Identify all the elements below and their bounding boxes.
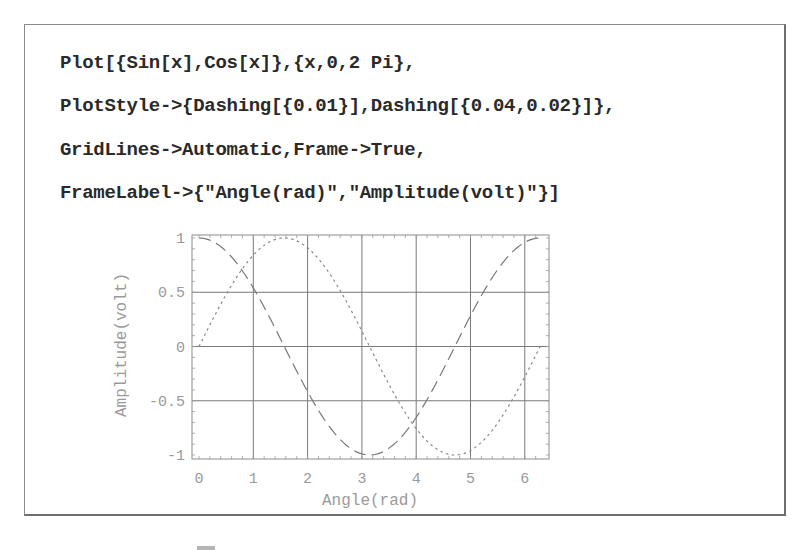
y-axis-label: Amplitude(volt) bbox=[113, 273, 131, 417]
x-tick-3: 3 bbox=[357, 471, 366, 488]
y-tick-labels: 10.50-0.5-1 bbox=[149, 231, 185, 465]
x-tick-0: 0 bbox=[194, 471, 203, 488]
sin-cos-plot: 0123456 10.50-0.5-1 Angle(rad) Amplitude… bbox=[0, 0, 807, 550]
page-fragment-mark bbox=[197, 546, 215, 550]
x-tick-6: 6 bbox=[520, 471, 529, 488]
x-tick-1: 1 bbox=[249, 471, 258, 488]
x-tick-2: 2 bbox=[303, 471, 312, 488]
x-tick-5: 5 bbox=[466, 471, 475, 488]
y-tick-0.5: 0.5 bbox=[158, 285, 185, 302]
y-tick-0: 0 bbox=[176, 340, 185, 357]
y-tick--1: -1 bbox=[167, 448, 185, 465]
y-tick--0.5: -0.5 bbox=[149, 394, 185, 411]
x-tick-labels: 0123456 bbox=[194, 471, 529, 488]
x-axis-label: Angle(rad) bbox=[322, 492, 418, 510]
x-tick-4: 4 bbox=[412, 471, 421, 488]
y-tick-1: 1 bbox=[176, 231, 185, 248]
